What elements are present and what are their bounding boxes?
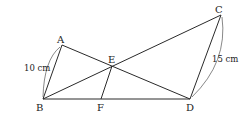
measure-label-ab: 10 cm xyxy=(24,63,50,73)
label-f: F xyxy=(97,102,104,113)
label-e: E xyxy=(108,54,115,65)
label-c: C xyxy=(215,4,223,15)
label-b: B xyxy=(36,102,43,113)
segment-ad xyxy=(62,45,190,99)
label-a: A xyxy=(56,34,65,45)
geometry-diagram: A B C D E F 10 cm 15 cm xyxy=(0,0,249,117)
measure-label-cd: 15 cm xyxy=(212,54,238,64)
label-d: D xyxy=(186,102,194,113)
